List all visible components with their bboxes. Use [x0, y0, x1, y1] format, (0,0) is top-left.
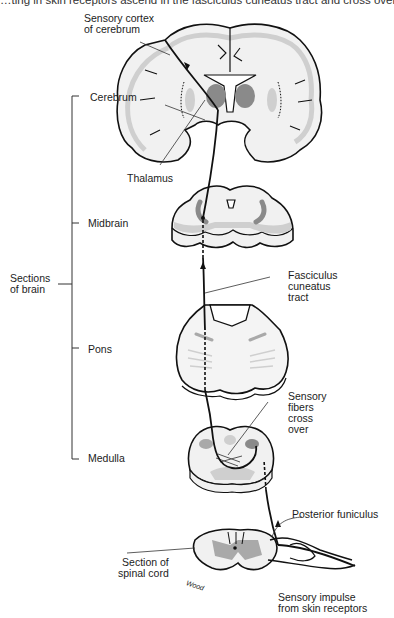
- label-sensory-cortex: Sensory cortex of cerebrum: [84, 13, 154, 35]
- pons-section: [176, 305, 288, 400]
- label-sensory-fibers-cross-over: Sensory fibers cross over: [288, 391, 327, 435]
- label-sections-of-brain: Sections of brain: [10, 273, 50, 295]
- sensory-pathway-diagram: [0, 0, 394, 618]
- label-posterior-funiculus: Posterior funiculus: [292, 509, 378, 520]
- label-midbrain: Midbrain: [88, 218, 128, 229]
- cerebrum-section: [117, 24, 321, 162]
- label-sensory-impulse: Sensory impulse from skin receptors: [278, 592, 367, 614]
- label-fasciculus-cuneatus-tract: Fasciculus cuneatus tract: [288, 270, 338, 303]
- label-thalamus: Thalamus: [127, 173, 173, 184]
- label-pons: Pons: [88, 344, 112, 355]
- sections-bracket: [58, 96, 79, 459]
- label-section-of-spinal-cord: Section of spinal cord: [118, 557, 169, 579]
- label-cerebrum: Cerebrum: [90, 92, 137, 103]
- label-medulla: Medulla: [88, 453, 125, 464]
- medulla-section: [188, 426, 273, 492]
- midbrain-section: [172, 186, 293, 247]
